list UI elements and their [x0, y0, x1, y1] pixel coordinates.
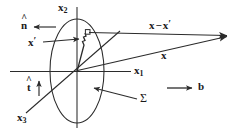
- surface-label-sigma: Σ: [140, 92, 147, 104]
- axis-label-x1-subscript: 1: [140, 69, 144, 78]
- t-hat-glyph-wrapper: ^t: [27, 82, 31, 93]
- axis-label-x1: x1: [134, 65, 144, 78]
- vector-label-b: b: [198, 81, 204, 92]
- vector-label-t-hat: ^t: [27, 82, 31, 93]
- x-minus-x-prime-mark: ′: [168, 18, 171, 29]
- axis-label-x2: x2: [58, 2, 68, 15]
- vector-label-x: x: [161, 50, 167, 61]
- hat-accent-icon: ^: [26, 75, 32, 85]
- vector-label-n-hat: ^n: [21, 20, 27, 31]
- diagram-canvas: [0, 0, 237, 131]
- hat-accent-icon: ^: [21, 13, 27, 23]
- vector-label-x-prime-mark: ′: [34, 35, 37, 46]
- x-minus-x-prime-vector-arrow: [89, 33, 227, 36]
- axis-label-x3-subscript: 3: [23, 116, 27, 125]
- vector-label-x-base: x: [161, 49, 167, 61]
- x-vector-arrow: [78, 37, 228, 71]
- axis-label-x2-subscript: 2: [64, 6, 68, 15]
- n-hat-glyph-wrapper: ^n: [21, 20, 27, 31]
- vector-label-x-prime: x′: [28, 36, 36, 48]
- axis-label-x3: x3: [17, 112, 27, 125]
- vector-diagram-figure: x2 x1 x3 ^n ^t x′ x − x′ x b Σ: [0, 0, 237, 131]
- x-prime-leader-arrow: [43, 39, 79, 42]
- surface-label-sigma-glyph: Σ: [140, 91, 147, 105]
- surface-element-square: [85, 30, 90, 35]
- vector-label-x-minus-x-prime: x − x′: [149, 19, 171, 31]
- vector-label-b-base: b: [198, 80, 204, 92]
